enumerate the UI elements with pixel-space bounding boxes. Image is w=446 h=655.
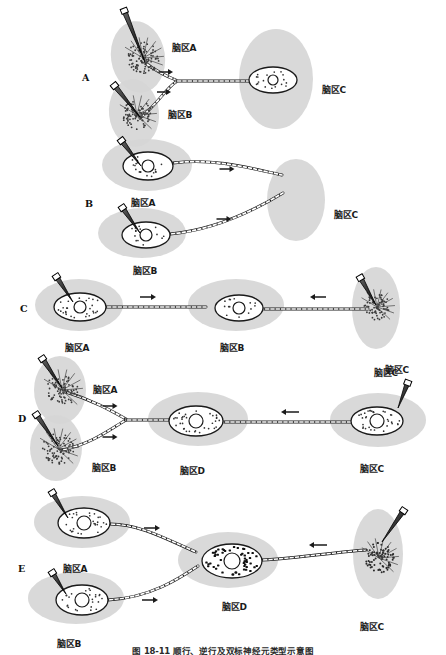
flow-arrow-b-0	[220, 166, 235, 172]
tracer-dot	[54, 456, 56, 458]
granule	[65, 313, 67, 315]
granule	[243, 565, 245, 567]
tracer-dot	[72, 443, 74, 445]
granule	[253, 566, 255, 568]
tracer-dot	[387, 307, 389, 309]
tracer-dot	[49, 458, 51, 460]
tracer-dot	[382, 565, 384, 567]
tracer-dot	[42, 447, 44, 449]
tracer-dot	[368, 564, 370, 566]
neuron-b-0	[123, 152, 173, 180]
tracer-dot	[48, 392, 50, 394]
nucleus	[224, 553, 240, 569]
neuron-e-2	[202, 544, 262, 578]
granule	[273, 71, 275, 73]
panel-letter-b: B	[85, 198, 93, 209]
arrow-head	[153, 597, 158, 603]
granule	[98, 601, 100, 603]
tracer-dot	[48, 380, 50, 382]
granule	[221, 552, 223, 554]
granule	[139, 228, 141, 230]
granule	[142, 244, 144, 246]
granule	[213, 566, 215, 568]
region-label-b-0: 脑区A	[131, 196, 155, 209]
granule	[282, 74, 284, 76]
region-label-d-2: 脑区D	[180, 464, 205, 477]
tracer-dot	[386, 298, 388, 300]
flow-arrow-c-1	[310, 294, 326, 300]
tracer-dot	[382, 314, 384, 316]
tracer-dot	[140, 60, 142, 62]
granule	[96, 311, 98, 313]
granule	[89, 515, 91, 517]
tracer-dot	[366, 311, 368, 313]
granule	[285, 85, 287, 87]
granule	[208, 428, 210, 430]
granule	[281, 83, 283, 85]
granule	[263, 80, 265, 82]
granule	[131, 228, 133, 230]
granule	[153, 172, 155, 174]
nucleus	[268, 75, 278, 85]
nucleus	[189, 414, 203, 428]
granule	[186, 431, 188, 433]
tracer-dot	[64, 383, 66, 385]
tracer-dot	[52, 378, 54, 380]
granule	[94, 513, 96, 515]
tracer-dot	[56, 457, 58, 459]
granule	[185, 414, 187, 416]
granule	[134, 235, 136, 237]
tracer-dot	[51, 460, 53, 462]
flow-arrow-e-1	[142, 597, 158, 603]
granule	[135, 169, 137, 171]
granule	[71, 593, 73, 595]
granule	[103, 522, 105, 524]
tracer-dot	[143, 112, 145, 114]
tracer-dot	[57, 400, 59, 402]
granule	[76, 514, 78, 516]
region-label-c-0: 脑区A	[65, 341, 89, 354]
granule	[155, 169, 157, 171]
tracer-dot	[155, 58, 157, 60]
arrow-head	[168, 69, 173, 75]
tracer-dot	[132, 118, 134, 120]
granule	[209, 413, 211, 415]
granule	[215, 568, 217, 570]
granule	[233, 546, 235, 548]
tracer-dot	[392, 559, 394, 561]
tracer-dot	[374, 311, 376, 313]
granule	[367, 410, 369, 412]
granule	[95, 312, 97, 314]
granule	[221, 572, 223, 574]
granule	[179, 423, 181, 425]
tracer-dot	[143, 70, 145, 72]
granule	[369, 410, 371, 412]
flow-arrow-c-0	[140, 294, 156, 300]
granule	[135, 163, 137, 165]
granule	[97, 516, 99, 518]
tracer-dot	[59, 390, 61, 392]
granule	[257, 83, 259, 85]
granule	[199, 432, 201, 434]
tracer-dot	[132, 113, 134, 115]
tracer-dot	[127, 124, 129, 126]
granule	[66, 595, 68, 597]
tracer-dot	[377, 318, 379, 320]
tracer-dot	[68, 378, 70, 380]
granule	[86, 313, 88, 315]
tracer-dot	[143, 48, 145, 50]
granule	[245, 569, 247, 571]
tracer-dot	[369, 299, 371, 301]
tracer-dot	[368, 555, 370, 557]
axon-lumen	[170, 193, 283, 234]
granule	[189, 430, 191, 432]
granule	[249, 557, 251, 559]
granule	[215, 420, 217, 422]
tracer-dot	[158, 60, 160, 62]
granule	[161, 164, 163, 166]
tracer-dot	[132, 55, 134, 57]
granule	[65, 524, 67, 526]
granule	[62, 599, 64, 601]
tracer-dot	[390, 554, 392, 556]
flow-arrow-d-2	[281, 409, 299, 415]
